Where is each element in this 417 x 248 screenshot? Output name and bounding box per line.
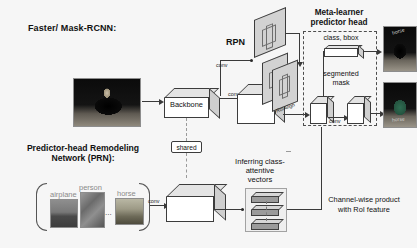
metahead-conv1-front: [310, 103, 327, 124]
shared-link-lower: [186, 153, 187, 178]
leader-mark-1: [286, 151, 291, 152]
class-attentive-vector-1: [251, 192, 283, 203]
class-attentive-vectors-group: [245, 188, 287, 232]
prn-thumbnail-person: [80, 192, 105, 228]
fc-head-bar-side: [358, 45, 364, 59]
metahead-conv2-side: [364, 96, 371, 123]
vector-3-top: [251, 219, 284, 224]
conv-label-prn: conv: [148, 198, 159, 204]
vector-1-top: [251, 192, 284, 197]
rpn-to-roi-vline: [299, 33, 300, 64]
inferring-vectors-line3: vectors: [218, 176, 302, 185]
fc-head-bar-top: [324, 45, 363, 49]
prn-class-label-horse: horse: [117, 189, 136, 198]
rpn-plate-anchor-box: [266, 23, 273, 50]
shared-link-upper: [186, 118, 187, 141]
vector-2-top: [251, 205, 284, 210]
conv-label-metahead: conv: [329, 118, 340, 124]
prn-cube: [166, 184, 226, 222]
arrow-input-to-backbone-line: [142, 101, 160, 102]
prn-cube-side: [214, 184, 226, 221]
prn-to-vectors-line: [214, 209, 244, 210]
prn-thumbnail-horse: [115, 198, 144, 225]
vector-3-front: [251, 223, 279, 230]
prn-ellipsis: ...: [105, 209, 112, 218]
channelwise-line2: with RoI feature: [312, 206, 416, 214]
backbone-side-face: [209, 88, 220, 119]
backbone-label: Backbone: [164, 101, 209, 109]
fc-head-bar-front: [324, 48, 358, 57]
prn-thumbnail-airplane: [50, 199, 78, 228]
prn-class-label-person: person: [79, 183, 102, 192]
metahead-branch-tiny: [323, 51, 325, 52]
vector-1-front: [251, 196, 279, 203]
rpn-branch-hline: [220, 60, 252, 61]
prn-cube-front: [166, 196, 214, 222]
roialign-front-anchor: [282, 74, 288, 99]
prn-title-line2: Network (PRN):: [8, 154, 158, 164]
rpn-feature-map-plate: [254, 14, 286, 58]
meta-head-title-line1: Meta-learner: [297, 8, 381, 17]
class-attentive-vector-3: [251, 219, 283, 230]
metahead-conv2-front: [347, 103, 364, 124]
segmented-mask-line2: mask: [310, 79, 372, 87]
vector-stack-connector: [266, 201, 267, 221]
prn-class-label-airplane: airplane: [50, 190, 77, 199]
fc-head-bar: [324, 45, 364, 57]
rpn-label: RPN: [226, 37, 245, 47]
figure-canvas: Faster/ Mask-RCNN: Predictor-head Remode…: [0, 0, 417, 248]
prn-bracket-left: [36, 183, 47, 231]
segmented-mask-line1: segmented: [310, 70, 372, 78]
fc-to-output-arrow: [377, 49, 382, 55]
prn-to-vectors-dot: [241, 208, 244, 211]
shared-label: shared: [171, 144, 202, 151]
class-attentive-vector-2: [251, 205, 283, 216]
metahead-conv-cube-2: [347, 96, 371, 124]
input-image-horse-rider: [73, 78, 141, 127]
meta-head-title-line2: predictor head: [297, 18, 381, 27]
rpn-to-roi-hline: [286, 33, 300, 34]
channelwise-line1: Channel-wise product: [312, 196, 416, 204]
conv-label-rpn: conv: [216, 62, 227, 68]
output-image-segmentation-caption: horse: [392, 115, 405, 122]
vector-2-front: [251, 209, 279, 216]
faster-mask-rcnn-title: Faster/ Mask-RCNN:: [28, 23, 116, 33]
rpn-branch-dot: [250, 59, 253, 62]
class-bbox-label: class, bbox: [310, 34, 372, 42]
